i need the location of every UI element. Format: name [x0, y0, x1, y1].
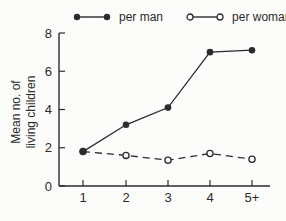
legend-item-per-man: per man — [72, 10, 163, 24]
legend-label-per-woman: per woman — [232, 10, 286, 24]
data-point-per-man-1 — [80, 148, 87, 155]
plot-area: 0246812345+ — [0, 0, 286, 221]
y-axis-title-line-1: Mean no. of — [9, 32, 24, 192]
x-tick-label: 5+ — [245, 190, 260, 205]
y-tick-label: 0 — [45, 179, 52, 194]
data-point-per-man-2 — [123, 122, 130, 129]
y-tick-label: 4 — [45, 102, 52, 117]
y-axis-title-line-2: living children — [24, 32, 39, 192]
y-tick-label: 6 — [45, 64, 52, 79]
y-axis-title: Mean no. of living children — [9, 32, 38, 192]
x-tick-label: 2 — [122, 190, 129, 205]
series-line-per-man — [83, 50, 252, 151]
open-circle-line-icon — [185, 12, 225, 22]
y-tick-label: 8 — [45, 26, 52, 41]
x-tick-label: 4 — [206, 190, 213, 205]
data-point-per-woman-2 — [123, 152, 129, 158]
data-point-per-man-4 — [207, 49, 214, 56]
data-point-per-man-3 — [165, 104, 172, 111]
data-point-per-man-5+ — [249, 47, 256, 54]
legend-item-per-woman: per woman — [185, 10, 286, 24]
x-tick-label: 3 — [164, 190, 171, 205]
y-tick-label: 2 — [45, 140, 52, 155]
data-point-per-woman-4 — [207, 150, 213, 156]
chart-figure: per man per woman Mean no. of living chi… — [0, 0, 286, 221]
legend-label-per-man: per man — [119, 10, 163, 24]
filled-circle-line-icon — [72, 12, 112, 22]
data-point-per-woman-3 — [165, 157, 171, 163]
data-point-per-woman-5+ — [249, 156, 255, 162]
chart-legend: per man per woman — [72, 10, 286, 24]
x-tick-label: 1 — [79, 190, 86, 205]
